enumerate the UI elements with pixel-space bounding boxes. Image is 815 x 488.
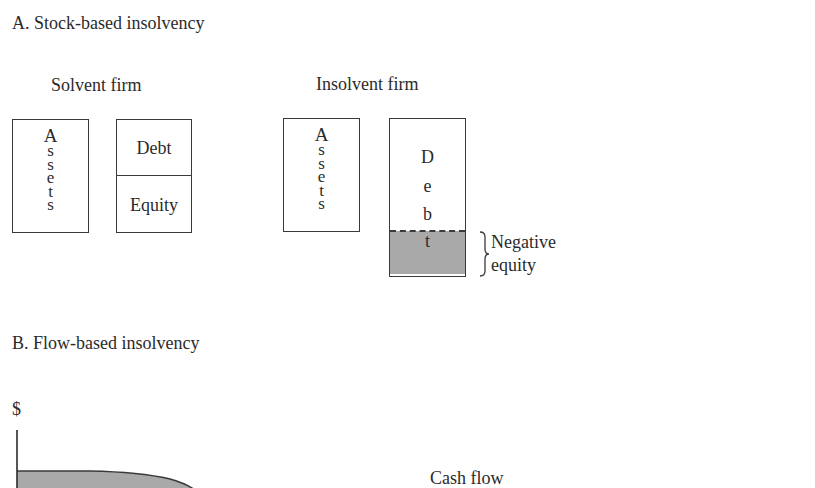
solvent-equity-label: Equity: [117, 195, 191, 216]
cash-flow-label: Cash flow: [430, 468, 504, 488]
insolvent-debt-box: D e b t: [389, 118, 466, 277]
letter: s: [13, 198, 88, 212]
solvent-liabilities-box: Debt Equity: [116, 119, 192, 233]
negative-equity-label-line1: Negative: [491, 231, 556, 253]
solvent-debt-label: Debt: [117, 138, 191, 159]
solvent-assets-word: A s s e t s: [13, 128, 88, 212]
solvent-firm-label: Solvent firm: [51, 75, 142, 95]
letter: t: [390, 232, 465, 250]
letter: D: [390, 148, 465, 166]
cash-flow-area: [17, 471, 195, 488]
insolvent-firm-label: Insolvent firm: [316, 74, 418, 94]
panel-b-title: B. Flow-based insolvency: [12, 333, 199, 353]
cash-flow-chart: [0, 420, 815, 486]
panel-a-title: A. Stock-based insolvency: [12, 13, 204, 33]
right-brace-icon: [478, 231, 490, 277]
insolvent-assets-word: A s s e t s: [284, 127, 359, 211]
solvent-assets-box: A s s e t s: [12, 119, 89, 233]
y-axis-label: $: [12, 399, 21, 419]
debt-equity-divider: [117, 175, 191, 176]
letter: e: [390, 177, 465, 195]
letter: s: [284, 197, 359, 211]
negative-equity-label-line2: equity: [491, 254, 536, 276]
letter: b: [390, 205, 465, 223]
insolvent-assets-box: A s s e t s: [283, 118, 360, 232]
